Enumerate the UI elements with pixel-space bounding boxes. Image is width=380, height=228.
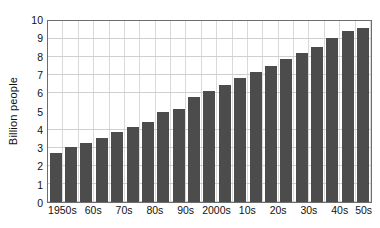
- x-tick-label: 1950s: [47, 204, 78, 216]
- x-tick-label: 70s: [109, 204, 140, 216]
- bar: [127, 127, 139, 202]
- bar-slot: [233, 21, 248, 202]
- bar-slot: [156, 21, 171, 202]
- bar: [96, 138, 108, 202]
- bar: [142, 122, 154, 202]
- bar: [250, 72, 262, 202]
- y-tick-label: 10: [0, 14, 43, 26]
- bar: [326, 38, 338, 202]
- y-tick-label: 4: [0, 124, 43, 136]
- x-tick-label: 80s: [139, 204, 170, 216]
- bar: [296, 53, 308, 202]
- bar-slot: [263, 21, 278, 202]
- bar: [157, 112, 169, 202]
- y-tick-label: 0: [0, 197, 43, 209]
- bar-slot: [94, 21, 109, 202]
- bars-layer: [48, 21, 371, 202]
- bar-slot: [79, 21, 94, 202]
- bar-slot: [48, 21, 63, 202]
- bar-slot: [248, 21, 263, 202]
- x-axis-tick-labels: 1950s60s70s80s90s2000s10s20s30s40s50s: [47, 204, 372, 216]
- y-tick-label: 3: [0, 142, 43, 154]
- bar-slot: [309, 21, 324, 202]
- bar: [234, 78, 246, 202]
- y-tick-label: 2: [0, 160, 43, 172]
- x-tick-label: 90s: [170, 204, 201, 216]
- x-tick-label: 40s: [324, 204, 355, 216]
- bar-slot: [63, 21, 78, 202]
- bar: [219, 85, 231, 202]
- x-tick-label: 2000s: [201, 204, 232, 216]
- y-tick-label: 1: [0, 179, 43, 191]
- bar-slot: [186, 21, 201, 202]
- bar-slot: [140, 21, 155, 202]
- bar: [203, 91, 215, 202]
- bar-slot: [202, 21, 217, 202]
- bar-slot: [125, 21, 140, 202]
- bar-slot: [325, 21, 340, 202]
- bar: [65, 147, 77, 202]
- x-tick-label: 30s: [294, 204, 325, 216]
- x-tick-label: 60s: [78, 204, 109, 216]
- y-tick-label: 6: [0, 87, 43, 99]
- bar: [188, 97, 200, 202]
- bar-slot: [171, 21, 186, 202]
- bar-slot: [217, 21, 232, 202]
- x-tick-label: 10s: [232, 204, 263, 216]
- y-tick-label: 5: [0, 106, 43, 118]
- bar: [280, 59, 292, 202]
- bar: [265, 66, 277, 202]
- x-tick-label: 50s: [355, 204, 372, 216]
- world-population-bar-chart: Billion people 012345678910 1950s60s70s8…: [0, 0, 380, 228]
- bar-slot: [356, 21, 371, 202]
- bar: [342, 31, 354, 202]
- x-tick-label: 20s: [263, 204, 294, 216]
- bar: [80, 143, 92, 202]
- bar: [111, 132, 123, 202]
- y-axis-tick-labels: 012345678910: [0, 0, 43, 228]
- bar-slot: [110, 21, 125, 202]
- y-tick-label: 8: [0, 51, 43, 63]
- y-tick-label: 7: [0, 69, 43, 81]
- bar-slot: [294, 21, 309, 202]
- y-tick-label: 9: [0, 32, 43, 44]
- bar: [173, 109, 185, 202]
- plot-area: [47, 20, 372, 203]
- bar-slot: [340, 21, 355, 202]
- bar: [50, 153, 62, 202]
- bar-slot: [279, 21, 294, 202]
- bar: [357, 28, 369, 202]
- bar: [311, 47, 323, 202]
